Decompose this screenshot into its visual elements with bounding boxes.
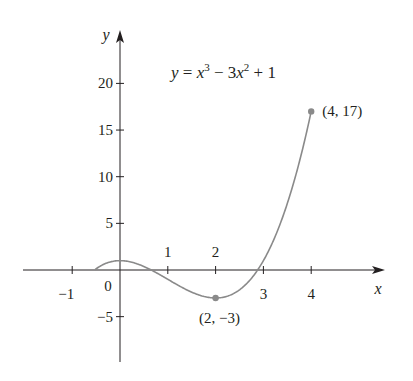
x-tick-label: 1 bbox=[164, 244, 172, 260]
x-tick-label: −1 bbox=[58, 286, 74, 302]
point-label-endpoint: (4, 17) bbox=[322, 103, 362, 120]
y-tick-label: 10 bbox=[98, 169, 113, 185]
y-tick-label: −5 bbox=[97, 309, 113, 325]
marked-point bbox=[212, 295, 218, 301]
function-curve bbox=[95, 108, 314, 301]
labels: −11234−551015200xy(2, −3)(4, 17)y = x3 −… bbox=[58, 26, 381, 327]
y-axis-label: y bbox=[100, 26, 110, 44]
cubic-function-graph: −11234−551015200xy(2, −3)(4, 17)y = x3 −… bbox=[0, 0, 413, 381]
y-tick-label: 20 bbox=[98, 75, 113, 91]
equation-title: y = x3 − 3x2 + 1 bbox=[169, 61, 276, 82]
y-tick-label: 15 bbox=[98, 122, 113, 138]
x-tick-label: 2 bbox=[212, 244, 220, 260]
y-tick-label: 5 bbox=[106, 215, 114, 231]
point-label-min: (2, −3) bbox=[199, 310, 240, 327]
marked-point bbox=[308, 108, 314, 114]
x-tick-label: 3 bbox=[260, 286, 268, 302]
x-tick-label: 4 bbox=[307, 286, 315, 302]
origin-label: 0 bbox=[104, 278, 112, 294]
x-axis-label: x bbox=[373, 280, 381, 297]
